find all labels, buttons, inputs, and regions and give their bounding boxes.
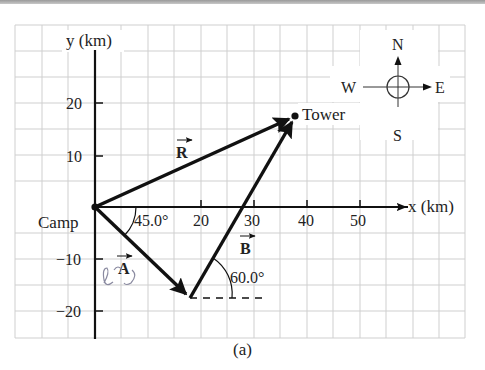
vector-b-label: B [240, 240, 251, 257]
y-tick-neg10: −10 [56, 251, 81, 268]
pencil-loop-mark [103, 268, 113, 285]
y-axis-label: y (km) [66, 31, 112, 50]
vector-diagram: x (km) y (km) 20 30 40 50 20 10 −10 −20 … [0, 0, 485, 370]
vector-r-label-group: R [176, 140, 192, 161]
figure-caption: (a) [0, 340, 485, 360]
vector-r-label: R [176, 144, 188, 161]
x-tick-30: 30 [244, 212, 260, 229]
y-tick-20: 20 [66, 95, 82, 112]
compass-south-label: S [393, 127, 402, 144]
compass-east-label: E [435, 79, 445, 96]
compass-north-label: N [392, 36, 404, 53]
camp-label: Camp [38, 213, 79, 232]
angle-b-label: 60.0° [230, 269, 264, 286]
x-tick-20: 20 [193, 212, 209, 229]
tower-point [291, 112, 298, 119]
camp-point [91, 203, 98, 210]
x-tick-40: 40 [298, 212, 314, 229]
y-tick-10: 10 [66, 148, 82, 165]
compass-west-label: W [341, 79, 357, 96]
y-tick-neg20: −20 [56, 303, 81, 320]
tower-label: Tower [302, 105, 346, 124]
x-axis-label: x (km) [408, 197, 454, 216]
vector-a-label: A [118, 260, 130, 277]
angle-a-label: 45.0° [134, 212, 168, 229]
x-tick-50: 50 [350, 212, 366, 229]
vector-r [95, 119, 289, 207]
vector-b-label-group: B [240, 236, 255, 257]
